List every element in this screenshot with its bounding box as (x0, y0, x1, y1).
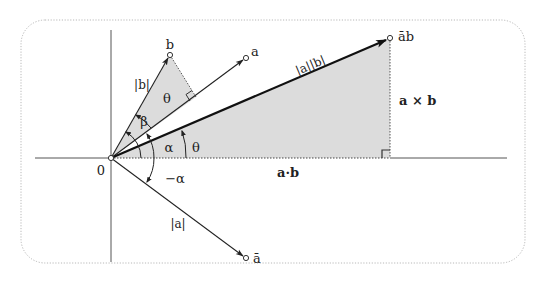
origin-point (108, 155, 113, 160)
label-magnitude-b: |b| (134, 78, 150, 92)
label-b: b (166, 37, 174, 52)
point-b (167, 52, 172, 57)
label-dot-product: a·b (277, 165, 299, 180)
label-abar-b: āb (398, 29, 414, 44)
angle-arc-neg-alpha (147, 158, 154, 182)
vector-diagram: b a āb ā 0 |b| |a| |a||b| θ β α θ −α a·b… (0, 0, 543, 282)
label-angle-beta: β (140, 114, 148, 129)
point-abar-b (387, 35, 392, 40)
point-abar (243, 255, 248, 260)
label-angle-theta-upper: θ (163, 91, 171, 106)
diagram-frame: b a āb ā 0 |b| |a| |a||b| θ β α θ −α a·b… (0, 0, 543, 282)
label-cross-product: a × b (399, 93, 436, 108)
label-a: a (251, 44, 259, 59)
label-angle-theta-lower: θ (192, 140, 200, 155)
label-angle-alpha: α (165, 140, 174, 155)
label-origin: 0 (97, 163, 105, 178)
label-magnitude-abar: |a| (170, 217, 185, 231)
label-angle-neg-alpha: −α (165, 171, 185, 186)
label-abar: ā (253, 251, 261, 266)
point-a (243, 55, 248, 60)
